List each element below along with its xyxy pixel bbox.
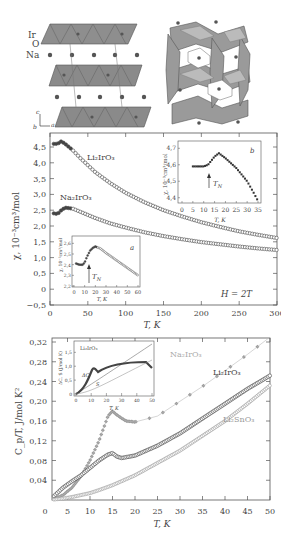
- svg-text:25: 25: [152, 507, 162, 516]
- svg-text:30: 30: [175, 507, 185, 516]
- susceptibility-chart: 4,54,03,53,02,52,01,51,00,50−0,5 0501001…: [11, 133, 281, 330]
- svg-text:10: 10: [81, 289, 87, 295]
- svg-text:20: 20: [104, 398, 110, 403]
- svg-text:30: 30: [103, 289, 109, 295]
- svg-text:1,5: 1,5: [65, 350, 72, 355]
- svg-text:c: c: [36, 108, 40, 115]
- svg-text:60: 60: [135, 289, 141, 295]
- svg-text:0,20: 0,20: [29, 397, 47, 406]
- svg-text:0: 0: [42, 507, 47, 516]
- svg-text:0,28: 0,28: [29, 358, 47, 367]
- svg-text:0: 0: [69, 392, 72, 397]
- field-annotation: H = 2T: [220, 289, 253, 299]
- svg-text:ΔC: ΔC: [81, 372, 90, 378]
- svg-text:2,0: 2,0: [33, 222, 46, 231]
- svg-text:200: 200: [194, 309, 209, 318]
- svg-text:0,04: 0,04: [29, 476, 47, 485]
- series-label-li2iro3: Li₂IrO₃: [213, 368, 241, 377]
- svg-text:0: 0: [41, 285, 46, 294]
- svg-text:T, K: T, K: [97, 296, 108, 302]
- svg-text:4,0: 4,0: [33, 159, 46, 168]
- svg-text:b: b: [33, 123, 37, 130]
- svg-text:0,5: 0,5: [33, 269, 46, 278]
- svg-text:40: 40: [113, 289, 119, 295]
- svg-text:15: 15: [107, 507, 117, 516]
- svg-text:1,0: 1,0: [65, 364, 72, 369]
- svg-text:25: 25: [232, 206, 240, 213]
- svg-text:2,6: 2,6: [64, 241, 71, 246]
- svg-text:20: 20: [222, 206, 230, 213]
- series-label-li2iro3: Li₂IrO₃: [87, 153, 115, 162]
- svg-text:50: 50: [149, 398, 155, 403]
- x-axis-label: T, K: [143, 320, 161, 330]
- svg-text:20: 20: [130, 507, 140, 516]
- svg-text:χ, 10⁻³cm³/mol: χ, 10⁻³cm³/mol: [162, 153, 169, 195]
- series-label-na2iro3: Na₂IrO₃: [170, 350, 202, 359]
- svg-text:10: 10: [200, 206, 208, 213]
- svg-text:0: 0: [47, 309, 52, 318]
- axes-triad: c b a: [33, 108, 55, 130]
- svg-text:a: a: [51, 121, 55, 128]
- inset-a: 01020304050602,22,32,42,52,6 a TN T, K χ…: [58, 236, 141, 302]
- svg-text:0,16: 0,16: [29, 417, 47, 426]
- svg-text:2,3: 2,3: [64, 273, 71, 278]
- svg-text:ΔC, S (J/mol K): ΔC, S (J/mol K): [58, 351, 63, 385]
- svg-text:30: 30: [243, 206, 251, 213]
- svg-text:20: 20: [92, 289, 98, 295]
- series-label-li2sno3: Li₂SnO₃: [223, 415, 254, 424]
- crystal-structure-side-view: Ir O Na c b a: [26, 24, 151, 130]
- svg-text:χ, 10⁻³cm³/mol: χ, 10⁻³cm³/mol: [58, 237, 63, 272]
- atom-label-na: Na: [26, 50, 40, 60]
- svg-text:10: 10: [88, 398, 94, 403]
- svg-text:150: 150: [156, 309, 171, 318]
- svg-text:30: 30: [119, 398, 125, 403]
- svg-text:5: 5: [191, 206, 195, 213]
- svg-text:250: 250: [232, 309, 247, 318]
- svg-text:0,12: 0,12: [29, 437, 47, 446]
- svg-text:50: 50: [83, 309, 93, 318]
- svg-text:3,5: 3,5: [33, 175, 46, 184]
- svg-text:35: 35: [197, 507, 207, 516]
- svg-text:100: 100: [118, 309, 133, 318]
- svg-text:50: 50: [124, 289, 130, 295]
- specific-heat-chart: 0,320,280,240,200,160,120,080,04 0510152…: [14, 337, 275, 529]
- inset-label: a: [130, 244, 134, 252]
- svg-text:0,32: 0,32: [29, 338, 47, 347]
- svg-text:10: 10: [85, 507, 95, 516]
- svg-text:−0,5: −0,5: [27, 301, 46, 310]
- svg-text:40: 40: [220, 507, 230, 516]
- inset-label: b: [250, 147, 255, 155]
- atom-label-o: O: [32, 39, 39, 49]
- svg-text:S: S: [96, 381, 100, 387]
- svg-text:2,4: 2,4: [64, 263, 71, 268]
- svg-text:0: 0: [72, 289, 75, 295]
- svg-text:45: 45: [242, 507, 252, 516]
- svg-text:4,7: 4,7: [166, 144, 176, 151]
- y-axis-label: χ, 10⁻³cm³/mol: [11, 192, 21, 260]
- svg-text:300: 300: [269, 309, 281, 318]
- svg-text:1,5: 1,5: [33, 238, 46, 247]
- inset-title: Li₂IrO₃: [80, 345, 97, 351]
- svg-text:0,08: 0,08: [29, 457, 47, 466]
- x-axis-label: T, K: [153, 519, 171, 529]
- svg-text:T, K: T, K: [109, 405, 119, 411]
- inset-entropy: 0102030405000,51,01,5 Li₂IrO₃ ΔC S T, K …: [58, 341, 155, 411]
- svg-text:2,5: 2,5: [64, 252, 71, 257]
- svg-text:1,0: 1,0: [33, 254, 46, 263]
- svg-text:3,0: 3,0: [33, 190, 46, 199]
- svg-text:T, K: T, K: [214, 216, 226, 223]
- svg-text:0,5: 0,5: [65, 378, 72, 383]
- svg-text:15: 15: [211, 206, 219, 213]
- svg-text:2,5: 2,5: [33, 206, 46, 215]
- svg-text:5: 5: [65, 507, 70, 516]
- series-label-na2iro3: Na₂IrO₃: [60, 193, 92, 202]
- svg-text:35: 35: [254, 206, 262, 213]
- svg-text:0: 0: [180, 206, 184, 213]
- inset-b: 051015202530354,44,54,64,7 b TN T, K χ, …: [162, 141, 262, 223]
- svg-text:0,24: 0,24: [29, 378, 47, 387]
- svg-text:0: 0: [75, 398, 78, 403]
- svg-text:40: 40: [134, 398, 140, 403]
- crystal-structure-top-view: [166, 20, 250, 125]
- svg-text:2,2: 2,2: [64, 284, 71, 289]
- y-axis-label: C_p/T, J/mol K²: [14, 387, 25, 455]
